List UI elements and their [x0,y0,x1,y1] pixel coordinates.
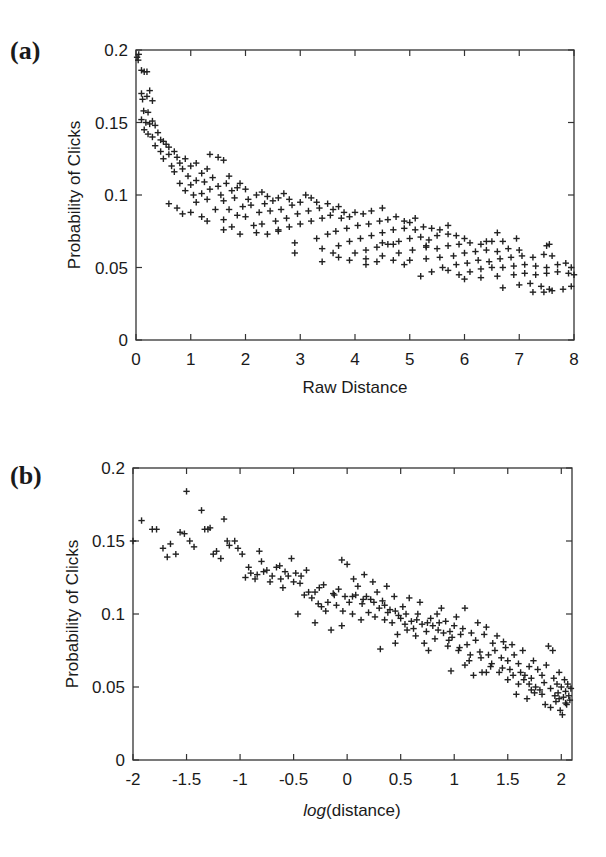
x-tick-label: 1 [186,350,195,369]
x-tick-label: -0.5 [279,770,308,789]
x-axis-label-b: log(distance) [303,801,400,820]
y-tick-label: 0 [116,751,125,770]
y-tick-label: 0.2 [104,41,128,60]
chart-a-plot: 01234567800.050.10.150.2 [95,41,579,369]
y-tick-label: 0.05 [95,259,128,278]
x-tick-label: 1.5 [496,770,520,789]
x-tick-label: 0 [131,350,140,369]
x-axis-label-b-rest: (distance) [326,801,401,820]
chart-b-plot: -2-1.5-1-0.500.511.5200.050.10.150.2 [92,459,574,789]
chart-b-svg: -2-1.5-1-0.500.511.5200.050.10.150.2 Pro… [0,428,606,857]
y-tick-label: 0.15 [95,114,128,133]
y-tick-label: 0.2 [101,459,125,478]
x-axis-label-b-italic: log [303,801,326,820]
x-tick-label: 0 [342,770,351,789]
x-tick-label: 7 [515,350,524,369]
x-axis-label-a: Raw Distance [303,378,408,397]
y-tick-label: 0 [119,331,128,350]
x-tick-label: 0.5 [389,770,413,789]
y-tick-label: 0.1 [101,605,125,624]
figure-a: (a) 01234567800.050.10.150.2 Probability… [0,0,606,428]
y-tick-label: 0.1 [104,186,128,205]
x-tick-label: 2 [241,350,250,369]
x-tick-label: 2 [557,770,566,789]
x-tick-label: -1.5 [172,770,201,789]
panel-label-b: (b) [10,461,42,491]
y-axis-label-b: Probability of Clicks [63,540,82,688]
y-tick-label: 0.15 [92,532,125,551]
x-tick-label: 6 [460,350,469,369]
x-tick-label: -1 [233,770,248,789]
panel-label-a: (a) [10,36,40,66]
y-tick-label: 0.05 [92,678,125,697]
x-tick-label: 8 [569,350,578,369]
data-points [130,488,574,718]
data-points [134,51,577,295]
chart-a-svg: 01234567800.050.10.150.2 Probability of … [0,0,606,428]
figure-b: (b) -2-1.5-1-0.500.511.5200.050.10.150.2… [0,428,606,857]
x-tick-label: 3 [296,350,305,369]
x-tick-label: 4 [350,350,359,369]
x-tick-label: -2 [125,770,140,789]
x-tick-label: 5 [405,350,414,369]
x-tick-label: 1 [449,770,458,789]
y-axis-label-a: Probability of Clicks [65,121,84,269]
